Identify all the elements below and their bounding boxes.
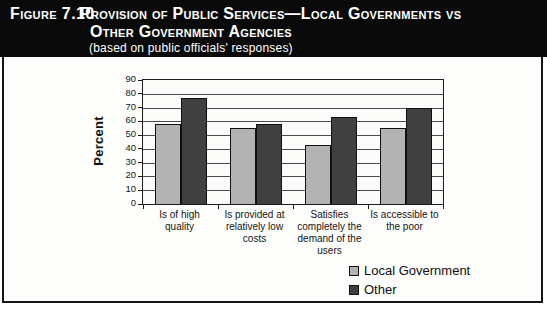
bar-group (143, 80, 218, 204)
figure-header: Figure 7.10 Provision of Public Services… (0, 0, 547, 57)
x-category-label-line: the poor (369, 221, 440, 233)
bar-groups (143, 80, 443, 204)
y-axis-tick-labels: 0102030405060708090 (108, 79, 136, 203)
legend-label: Local Government (364, 263, 470, 278)
x-axis-category-labels: Is of high qualityIs provided atrelative… (142, 209, 442, 257)
x-category-label-line: Is provided at (219, 209, 290, 221)
x-category-label-line: relatively low (219, 221, 290, 233)
bar-local-government (380, 128, 406, 204)
legend-item: Local Government (349, 263, 470, 278)
bar-other (181, 98, 207, 204)
x-category-label-line: completely the (294, 221, 365, 233)
y-tick-label: 10 (108, 184, 136, 194)
x-category-label: Is of high quality (142, 209, 217, 257)
y-tick-label: 50 (108, 129, 136, 139)
y-tick-label: 20 (108, 170, 136, 180)
bar-other (331, 117, 357, 204)
figure-title-line2: Other Government Agencies (90, 23, 292, 41)
legend: Local GovernmentOther (349, 263, 470, 297)
y-tick-label: 40 (108, 143, 136, 153)
y-tick-label: 60 (108, 115, 136, 125)
x-category-label: Satisfiescompletely thedemand of theuser… (292, 209, 367, 257)
bar-group (293, 80, 368, 204)
legend-item: Other (349, 282, 470, 297)
y-tick-label: 30 (108, 157, 136, 167)
y-axis-title-text: Percent (91, 116, 106, 166)
y-axis-title: Percent (88, 79, 108, 203)
x-category-label-line: Is accessible to (369, 209, 440, 221)
y-tick-label: 90 (108, 74, 136, 84)
y-tick-label: 0 (108, 198, 136, 208)
legend-label: Other (364, 282, 397, 297)
x-category-label-line: Satisfies (294, 209, 365, 221)
figure-subtitle: (based on public officials' responses) (89, 41, 293, 55)
x-tick-mark (443, 204, 444, 209)
bar-local-government (230, 128, 256, 204)
x-category-label-line: costs (219, 233, 290, 245)
bar-group (368, 80, 443, 204)
bar-local-government (155, 124, 181, 204)
bar-other (406, 108, 432, 204)
legend-swatch-icon (349, 266, 359, 276)
plot-area (142, 79, 444, 205)
figure-title-line1: Provision of Public Services—Local Gover… (80, 5, 461, 23)
figure-panel: Figure 7.10 Provision of Public Services… (0, 0, 547, 312)
bar-group (218, 80, 293, 204)
x-category-label: Is accessible tothe poor (367, 209, 442, 257)
y-tick-label: 70 (108, 102, 136, 112)
x-category-label-line: users (294, 245, 365, 257)
bar-local-government (305, 145, 331, 204)
bar-other (256, 124, 282, 204)
legend-swatch-icon (349, 285, 359, 295)
x-category-label-line: demand of the (294, 233, 365, 245)
y-tick-label: 80 (108, 88, 136, 98)
x-category-label-line: Is of high quality (144, 209, 215, 233)
x-category-label: Is provided atrelatively lowcosts (217, 209, 292, 257)
